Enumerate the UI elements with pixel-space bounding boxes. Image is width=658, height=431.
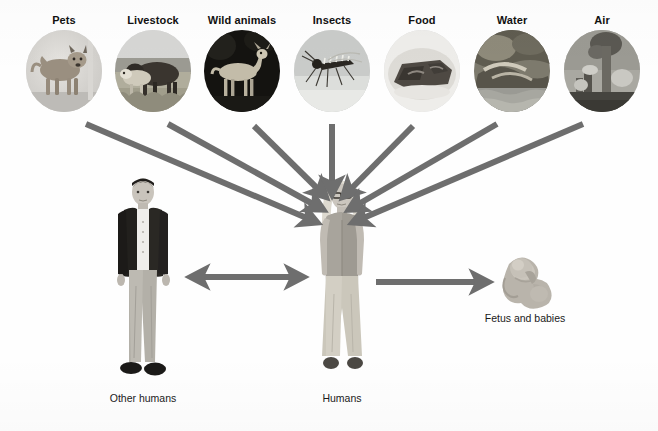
page-grain-overlay [0, 0, 658, 431]
exposure-pathways-diagram: Pets [0, 0, 658, 431]
